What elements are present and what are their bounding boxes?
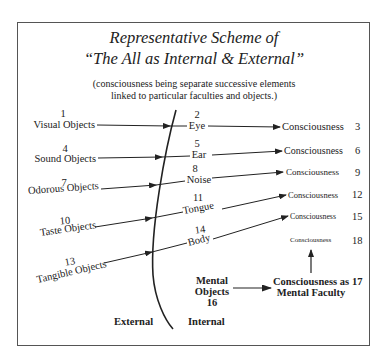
object-num: 1	[50, 109, 76, 120]
region-external: External	[114, 317, 153, 328]
consciousness-num: 6	[355, 146, 360, 157]
mental-faculty-line-2: Mental Faculty	[272, 288, 350, 299]
consciousness-num: 9	[355, 168, 360, 179]
mental-objects-line-1: Mental	[192, 276, 232, 287]
faculty-num: 2	[185, 110, 209, 121]
boundary-curve	[153, 110, 176, 329]
consciousness-label: Consciousness	[284, 146, 343, 156]
faculty-label: Noise	[182, 175, 216, 186]
faculty-num: 8	[183, 164, 207, 175]
consciousness-label: Consciousness	[282, 122, 344, 133]
consciousness-label: Consciousness	[290, 237, 331, 244]
consciousness-num: 18	[352, 236, 363, 247]
subtitle-line-1: (consciousness being separate successive…	[0, 79, 388, 89]
consciousness-num: 12	[352, 190, 363, 201]
subtitle-line-2: linked to particular faculties and objec…	[0, 91, 388, 101]
consciousness-label: Consciousness	[286, 168, 339, 177]
title-line-2: “The All as Internal & External”	[0, 51, 388, 68]
mental-faculty-line-1: Consciousness as	[272, 277, 350, 288]
consciousness-label: Consciousness	[288, 191, 338, 200]
consciousness-num: 3	[355, 122, 360, 133]
region-internal: Internal	[188, 317, 225, 328]
consciousness-num: 15	[352, 212, 363, 223]
mental-objects-line-2: Objects	[192, 287, 232, 298]
title-line-1: Representative Scheme of	[0, 30, 388, 47]
consciousness-label: Consciousness	[290, 213, 336, 221]
faculty-num: 5	[185, 139, 209, 150]
faculty-label: Eye	[185, 121, 209, 132]
mental-objects-num: 16	[192, 298, 232, 309]
object-label: Sound Objects	[22, 154, 96, 165]
object-label: Visual Objects	[22, 120, 95, 131]
mental-faculty-num: 17	[352, 277, 363, 288]
faculty-label: Ear	[187, 150, 211, 161]
